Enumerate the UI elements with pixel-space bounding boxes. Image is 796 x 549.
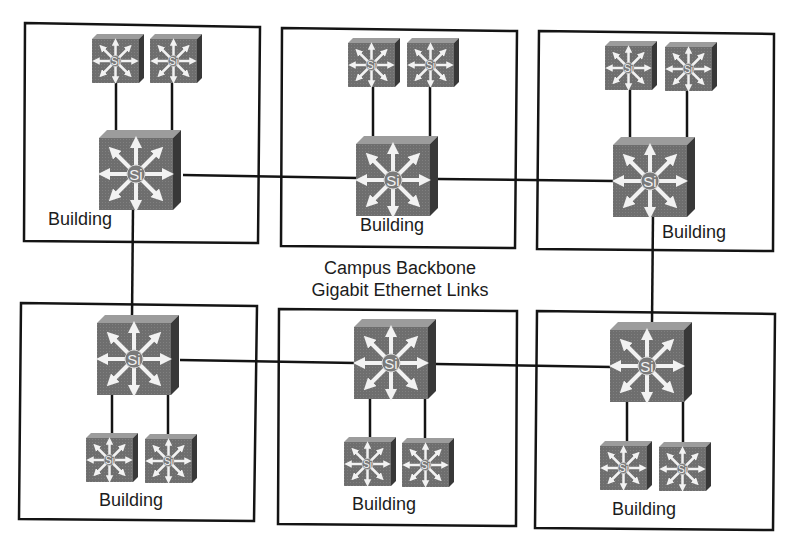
- core-switch-icon[interactable]: [97, 315, 179, 395]
- link-b4-b5: [180, 360, 355, 363]
- campus-backbone-diagram: Si Si: [0, 0, 796, 549]
- backbone-caption: Campus Backbone Gigabit Ethernet Links: [282, 257, 518, 301]
- building-b6: [600, 322, 711, 491]
- building-label-b1: Building: [48, 209, 112, 230]
- access-switch-icon[interactable]: [145, 434, 197, 483]
- access-switch-icon[interactable]: [600, 441, 652, 490]
- access-switch-icon[interactable]: [659, 442, 711, 491]
- access-switch-icon[interactable]: [348, 38, 400, 87]
- access-switch-icon[interactable]: [86, 433, 138, 482]
- link-b1-b4: [132, 209, 133, 318]
- building-b5: [344, 319, 454, 487]
- access-switch-icon[interactable]: [344, 437, 396, 486]
- caption-line-2: Gigabit Ethernet Links: [282, 279, 518, 301]
- access-switch-icon[interactable]: [92, 34, 144, 83]
- building-label-b4: Building: [99, 490, 163, 511]
- building-label-b6: Building: [612, 499, 676, 520]
- access-switch-icon[interactable]: [402, 438, 454, 487]
- building-label-b2: Building: [360, 215, 424, 236]
- access-switch-icon[interactable]: [150, 34, 202, 83]
- caption-line-1: Campus Backbone: [282, 257, 518, 279]
- building-label-b5: Building: [352, 494, 416, 515]
- core-switch-icon[interactable]: [99, 130, 181, 210]
- building-b1: [92, 34, 202, 210]
- building-b3: [605, 41, 717, 217]
- access-switch-icon[interactable]: [605, 41, 657, 90]
- link-b1-b2: [183, 175, 358, 178]
- building-label-b3: Building: [662, 222, 726, 243]
- core-switch-icon[interactable]: [354, 319, 436, 399]
- core-switch-icon[interactable]: [613, 137, 695, 217]
- core-switch-icon[interactable]: [610, 322, 692, 402]
- building-b4: [86, 315, 197, 483]
- link-b2-b3: [438, 179, 614, 181]
- access-switch-icon[interactable]: [407, 38, 459, 87]
- link-b3-b6: [652, 215, 653, 323]
- core-switch-icon[interactable]: [356, 136, 438, 216]
- link-b5-b6: [436, 364, 612, 367]
- building-b2: [348, 38, 459, 216]
- access-switch-icon[interactable]: [665, 42, 717, 91]
